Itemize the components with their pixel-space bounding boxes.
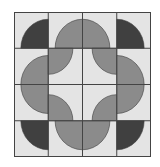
quilt-diagram	[14, 12, 151, 157]
quilt-grid	[14, 12, 151, 157]
